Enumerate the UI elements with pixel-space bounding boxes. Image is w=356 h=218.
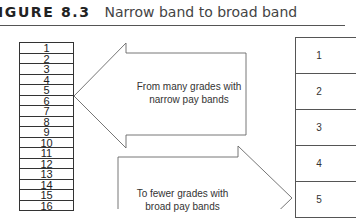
bottom-arrow-line1: To fewer grades with (125, 187, 240, 200)
bottom-arrow-label: To fewer grades with broad pay bands (125, 187, 240, 213)
top-arrow-line1: From many grades with (134, 80, 244, 93)
top-arrow-line2: narrow pay bands (134, 93, 244, 106)
bottom-arrow-line2: broad pay bands (125, 200, 240, 213)
top-arrow-label: From many grades with narrow pay bands (134, 80, 244, 106)
